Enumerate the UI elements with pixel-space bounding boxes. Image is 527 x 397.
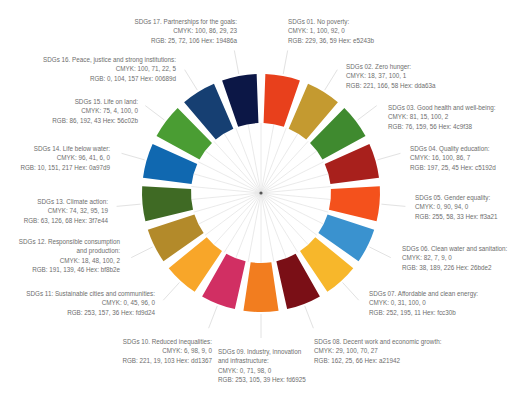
goal-label-sdg-05: SDGs 05. Gender equality: CMYK: 0, 90, 9… bbox=[415, 193, 498, 221]
center-dot bbox=[259, 191, 262, 194]
goal-rgb-hex: RGB: 255, 58, 33 Hex: ff3a21 bbox=[415, 212, 498, 221]
goal-label-sdg-12: SDGs 12. Responsible consumption and pro… bbox=[19, 237, 120, 274]
goal-rgb-hex: RGB: 0, 104, 157 Hex: 00689d bbox=[43, 74, 176, 83]
goal-rgb-hex: RGB: 38, 189, 226 Hex: 26bde2 bbox=[402, 263, 507, 272]
leader-line bbox=[234, 50, 238, 74]
goal-cmyk: CMYK: 82, 7, 9, 0 bbox=[402, 253, 507, 262]
goal-label-sdg-06: SDGs 06. Clean water and sanitation: CMY… bbox=[402, 244, 507, 272]
goal-rgb-hex: RGB: 229, 36, 59 Hex: e5243b bbox=[288, 36, 374, 45]
goal-title: SDGs 02. Zero hunger: bbox=[346, 62, 436, 71]
goal-label-sdg-13: SDGs 13. Climate action: CMYK: 74, 32, 9… bbox=[24, 197, 108, 225]
goal-cmyk: CMYK: 75, 4, 100, 0 bbox=[52, 106, 138, 115]
goal-rgb-hex: RGB: 252, 195, 11 Hex: fcc30b bbox=[369, 308, 478, 317]
goal-cmyk: CMYK: 18, 48, 100, 2 bbox=[19, 256, 120, 265]
segment-sdg-05 bbox=[329, 186, 380, 221]
goal-title-cont: and production: bbox=[19, 246, 120, 255]
goal-rgb-hex: RGB: 221, 166, 58 Hex: dda63a bbox=[346, 81, 436, 90]
leader-line bbox=[369, 247, 390, 258]
goal-title: SDGs 01. No poverty: bbox=[288, 17, 374, 26]
leader-line bbox=[343, 282, 359, 300]
goal-label-sdg-14: SDGs 14. Life below water: CMYK: 96, 41,… bbox=[20, 144, 110, 172]
segment-sdg-13 bbox=[142, 186, 193, 221]
leader-line bbox=[377, 153, 400, 160]
goal-title: SDGs 09. Industry, innovation bbox=[218, 347, 306, 356]
goal-cmyk: CMYK: 18, 37, 100, 1 bbox=[346, 71, 436, 80]
goal-title: SDGs 11: Sustainable cities and communit… bbox=[26, 289, 155, 298]
goal-rgb-hex: RGB: 63, 126, 68 Hex: 3f7e44 bbox=[24, 216, 108, 225]
goal-rgb-hex: RGB: 221, 19, 103 Hex: dd1367 bbox=[122, 356, 212, 365]
leader-line bbox=[185, 70, 198, 90]
goal-cmyk: CMYK: 6, 98, 9, 0 bbox=[122, 346, 212, 355]
goal-title-cont: and infrastructure: bbox=[218, 356, 306, 365]
goal-cmyk: CMYK: 0, 45, 96, 0 bbox=[26, 298, 155, 307]
goal-title: SDGs 15. Life on land: bbox=[52, 97, 138, 106]
goal-label-sdg-08: SDGs 08. Decent work and economic growth… bbox=[314, 337, 441, 365]
goal-cmyk: CMYK: 1, 100, 92, 0 bbox=[288, 26, 374, 35]
goal-label-sdg-01: SDGs 01. No poverty: CMYK: 1, 100, 92, 0… bbox=[288, 17, 374, 45]
goal-title: SDGs 17. Partnerships for the goals: bbox=[134, 17, 237, 26]
goal-label-sdg-03: SDGs 03. Good health and well-being: CMY… bbox=[388, 103, 495, 131]
goal-title: SDGs 14. Life below water: bbox=[20, 144, 110, 153]
segment-sdg-09 bbox=[243, 262, 278, 312]
goal-rgb-hex: RGB: 76, 159, 56 Hex: 4c9f38 bbox=[388, 122, 495, 131]
leader-line bbox=[122, 153, 145, 160]
goal-title: SDGs 04. Quality education: bbox=[410, 144, 496, 153]
goal-cmyk: CMYK: 74, 32, 95, 19 bbox=[24, 206, 108, 215]
goal-cmyk: CMYK: 0, 31, 100, 0 bbox=[369, 298, 478, 307]
goal-cmyk: CMYK: 81, 15, 100, 2 bbox=[388, 112, 495, 121]
goal-cmyk: CMYK: 100, 86, 29, 23 bbox=[134, 26, 237, 35]
goal-rgb-hex: RGB: 191, 139, 46 Hex: bf8b2e bbox=[19, 265, 120, 274]
goal-label-sdg-04: SDGs 04. Quality education: CMYK: 16, 10… bbox=[410, 144, 496, 172]
goal-cmyk: CMYK: 100, 71, 22, 5 bbox=[43, 64, 176, 73]
goal-title: SDGs 16. Peace, justice and strong insti… bbox=[43, 55, 176, 64]
goal-title: SDGs 12. Responsible consumption bbox=[19, 237, 120, 246]
goal-title: SDGs 13. Climate action: bbox=[24, 197, 108, 206]
leader-line bbox=[358, 106, 377, 120]
goal-label-sdg-09: SDGs 09. Industry, innovation and infras… bbox=[218, 347, 306, 384]
leader-line bbox=[283, 50, 287, 74]
goal-title: SDGs 07. Affordable and clean energy: bbox=[369, 289, 478, 298]
leader-line bbox=[131, 247, 152, 258]
goal-rgb-hex: RGB: 253, 157, 36 Hex: fd9d24 bbox=[26, 308, 155, 317]
goal-label-sdg-07: SDGs 07. Affordable and clean energy: CM… bbox=[369, 289, 478, 317]
leader-line bbox=[325, 70, 338, 90]
goal-rgb-hex: RGB: 253, 105, 39 Hex: fd6925 bbox=[218, 375, 306, 384]
goal-title: SDGs 05. Gender equality: bbox=[415, 193, 498, 202]
goal-label-sdg-16: SDGs 16. Peace, justice and strong insti… bbox=[43, 55, 176, 83]
goal-cmyk: CMYK: 96, 41, 6, 0 bbox=[20, 153, 110, 162]
goal-title: SDGs 08. Decent work and economic growth… bbox=[314, 337, 441, 346]
leader-line bbox=[305, 306, 314, 328]
goal-label-sdg-15: SDGs 15. Life on land: CMYK: 75, 4, 100,… bbox=[52, 97, 138, 125]
goal-label-sdg-17: SDGs 17. Partnerships for the goals: CMY… bbox=[134, 17, 237, 45]
goal-cmyk: CMYK: 16, 100, 86, 7 bbox=[410, 153, 496, 162]
goal-label-sdg-11: SDGs 11: Sustainable cities and communit… bbox=[26, 289, 155, 317]
goal-title: SDGs 10. Reduced inequalities: bbox=[122, 337, 212, 346]
goal-label-sdg-10: SDGs 10. Reduced inequalities: CMYK: 6, … bbox=[122, 337, 212, 365]
leader-line bbox=[209, 306, 218, 328]
goal-cmyk: CMYK: 0, 71, 98, 0 bbox=[218, 366, 306, 375]
goal-rgb-hex: RGB: 197, 25, 45 Hex: c5192d bbox=[410, 163, 496, 172]
goal-label-sdg-02: SDGs 02. Zero hunger: CMYK: 18, 37, 100,… bbox=[346, 62, 436, 90]
goal-rgb-hex: RGB: 162, 25, 66 Hex: a21942 bbox=[314, 356, 441, 365]
goal-cmyk: CMYK: 0, 90, 94, 0 bbox=[415, 202, 498, 211]
goal-title: SDGs 03. Good health and well-being: bbox=[388, 103, 495, 112]
goal-rgb-hex: RGB: 25, 72, 106 Hex: 19486a bbox=[134, 36, 237, 45]
goal-title: SDGs 06. Clean water and sanitation: bbox=[402, 244, 507, 253]
goal-rgb-hex: RGB: 10, 151, 217 Hex: 0a97d9 bbox=[20, 163, 110, 172]
leader-line bbox=[163, 282, 179, 300]
leader-line bbox=[381, 204, 405, 206]
leader-line bbox=[117, 204, 141, 206]
leader-line bbox=[145, 106, 164, 120]
goal-cmyk: CMYK: 29, 100, 70, 27 bbox=[314, 346, 441, 355]
goal-rgb-hex: RGB: 86, 192, 43 Hex: 56c02b bbox=[52, 116, 138, 125]
